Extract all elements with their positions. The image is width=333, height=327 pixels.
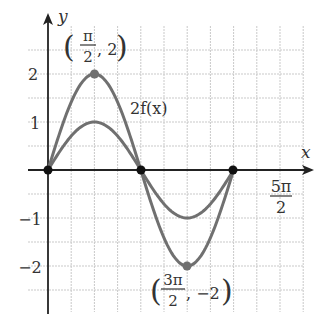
- zero-point-0: [44, 166, 53, 175]
- min-point: [183, 262, 192, 271]
- y-tick-2: 2: [28, 65, 38, 84]
- min-close-paren: ): [221, 273, 233, 308]
- zero-point-pi: [137, 166, 146, 175]
- min-rest: , −2: [186, 284, 220, 303]
- grid: [28, 26, 304, 312]
- chart-canvas: y x 2 1 −1 −2 5π 2 2f(x) ( π 2 , 2 ) ( 3…: [0, 0, 333, 327]
- zero-point-2pi: [229, 166, 238, 175]
- y-tick-minus-2: −2: [18, 258, 42, 277]
- x-axis-label: x: [301, 142, 311, 162]
- peak-point: [90, 70, 99, 79]
- peak-close-paren: ): [116, 29, 128, 64]
- min-den: 2: [168, 292, 178, 310]
- x-tick-5pi-over-2-den: 2: [276, 198, 286, 217]
- peak-rest: , 2: [97, 40, 117, 59]
- x-tick-5pi-over-2-num: 5π: [271, 177, 292, 196]
- min-annotation: ( 3π 2 , −2 ): [150, 271, 233, 310]
- min-open-paren: (: [150, 273, 162, 308]
- peak-num: π: [83, 27, 93, 45]
- peak-den: 2: [83, 48, 93, 66]
- y-tick-minus-1: −1: [18, 210, 42, 229]
- y-tick-1: 1: [30, 114, 40, 133]
- peak-annotation: ( π 2 , 2 ): [63, 27, 128, 66]
- curve-label-2f-x: 2f(x): [130, 99, 168, 118]
- y-axis-label: y: [57, 6, 68, 26]
- peak-open-paren: (: [63, 29, 75, 64]
- min-num: 3π: [163, 271, 183, 289]
